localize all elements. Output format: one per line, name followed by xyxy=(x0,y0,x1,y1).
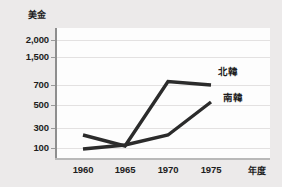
y-tick-label-100: 100 xyxy=(5,142,49,153)
series-label-south-korea: 南韓 xyxy=(223,90,243,104)
series-label-north-korea: 北韓 xyxy=(218,64,238,78)
line-chart: 美金 2,000 1,500 700 500 300 100 1960 1965… xyxy=(0,0,282,187)
y-axis-line xyxy=(55,28,57,159)
gridline-1500 xyxy=(56,57,270,58)
gridline-300 xyxy=(56,128,270,129)
x-axis-title: 年度 xyxy=(248,164,266,177)
y-tick-label-300: 300 xyxy=(5,122,49,133)
gridline-100 xyxy=(56,148,270,149)
y-axis-title: 美金 xyxy=(28,8,46,21)
y-tick-label-2000: 2,000 xyxy=(5,34,49,45)
x-tick-label-1965: 1965 xyxy=(105,164,145,175)
gridline-500 xyxy=(56,105,270,106)
y-tick-label-500: 500 xyxy=(5,99,49,110)
x-tick-label-1960: 1960 xyxy=(63,164,103,175)
x-axis-line xyxy=(55,158,270,160)
x-tick-label-1975: 1975 xyxy=(191,164,231,175)
gridline-700 xyxy=(56,85,270,86)
y-tick-label-1500: 1,500 xyxy=(5,51,49,62)
gridline-2000 xyxy=(56,40,270,41)
y-tick-label-700: 700 xyxy=(5,79,49,90)
x-tick-label-1970: 1970 xyxy=(148,164,188,175)
